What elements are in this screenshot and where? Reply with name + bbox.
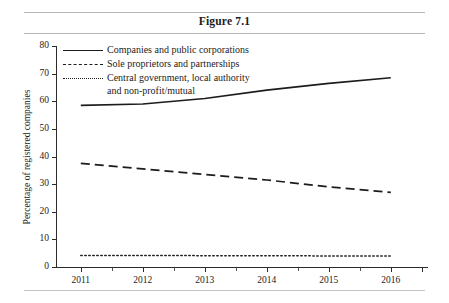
y-axis-title: Percentage of registered companies (20, 46, 34, 268)
x-tick-label: 2013 (195, 276, 214, 286)
series-line (81, 163, 391, 192)
divider-top (24, 12, 425, 13)
x-tick (143, 268, 144, 272)
x-tick (422, 268, 423, 272)
y-tick-label: 80 (40, 41, 50, 51)
legend-item-central-government-local-authority: Central government, local authority and … (63, 72, 250, 98)
y-tick-label: 20 (40, 207, 50, 217)
x-tick-minor (174, 268, 175, 271)
y-tick-label: 60 (40, 97, 50, 107)
x-tick (81, 268, 82, 272)
divider-under-title (24, 33, 425, 34)
y-tick-label: 10 (40, 235, 50, 245)
x-tick-minor (298, 268, 299, 271)
x-tick-label: 2015 (319, 276, 338, 286)
legend-swatch-dotted-icon (63, 73, 103, 85)
y-tick-label: 50 (40, 124, 50, 134)
series-line (81, 255, 391, 256)
legend-label: Sole proprietors and partnerships (103, 58, 239, 71)
legend-swatch-dashed-icon (63, 59, 103, 71)
legend: Companies and public corporations Sole p… (63, 44, 250, 99)
x-tick-label: 2011 (71, 276, 90, 286)
x-tick-minor (236, 268, 237, 271)
legend-label: Central government, local authority and … (103, 72, 250, 97)
x-tick (267, 268, 268, 272)
figure-title: Figure 7.1 (0, 15, 449, 27)
x-tick (329, 268, 330, 272)
x-tick (205, 268, 206, 272)
divider-bottom (24, 290, 425, 291)
legend-item-companies-and-public-corporations: Companies and public corporations (63, 44, 250, 57)
x-tick-minor (360, 268, 361, 271)
y-tick-label: 0 (44, 262, 49, 272)
y-tick-label: 70 (40, 69, 50, 79)
legend-item-sole-proprietors-and-partnerships: Sole proprietors and partnerships (63, 58, 250, 71)
x-tick-minor (112, 268, 113, 271)
x-tick-label: 2016 (381, 276, 400, 286)
y-tick-label: 40 (40, 152, 50, 162)
legend-label: Companies and public corporations (103, 44, 249, 57)
x-tick-label: 2012 (133, 276, 152, 286)
y-tick-label: 30 (40, 179, 50, 189)
legend-swatch-solid-icon (63, 45, 103, 57)
x-tick (391, 268, 392, 272)
figure-container: Figure 7.1 Percentage of registered comp… (0, 0, 449, 303)
x-tick-label: 2014 (257, 276, 276, 286)
y-axis-title-label: Percentage of registered companies (22, 90, 32, 225)
